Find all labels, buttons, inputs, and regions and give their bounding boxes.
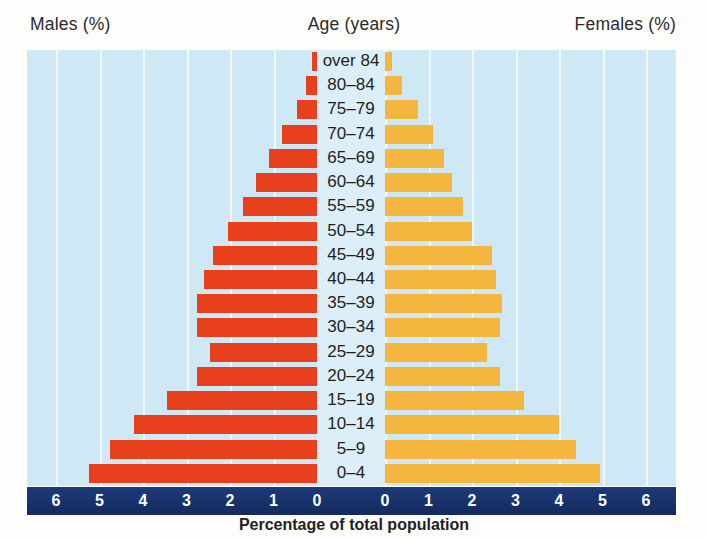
female-bar: [385, 440, 576, 459]
x-tick-right-5: 5: [591, 487, 615, 515]
female-bar: [385, 367, 500, 386]
male-bar: [213, 246, 317, 265]
age-group-label: 20–24: [317, 365, 385, 388]
pyramid-row: 5–9: [27, 438, 676, 461]
male-bar: [197, 367, 317, 386]
pyramid-row: 70–74: [27, 123, 676, 146]
pyramid-row: 35–39: [27, 292, 676, 315]
female-bar: [385, 294, 502, 313]
x-tick-left-4: 4: [131, 487, 155, 515]
plot-area: over 8480–8475–7970–7465–6960–6455–5950–…: [27, 50, 676, 486]
pyramid-row: 25–29: [27, 341, 676, 364]
x-axis-caption: Percentage of total population: [0, 516, 708, 534]
x-tick-right-3: 3: [504, 487, 528, 515]
male-bar: [134, 415, 317, 434]
male-bar: [204, 270, 317, 289]
male-bar: [297, 100, 317, 119]
age-group-label: 80–84: [317, 74, 385, 97]
x-axis-strip: 65432100123456: [27, 487, 676, 515]
pyramid-row: 30–34: [27, 316, 676, 339]
x-tick-left-1: 1: [262, 487, 286, 515]
age-group-label: 70–74: [317, 123, 385, 146]
females-axis-title: Females (%): [575, 14, 676, 35]
female-bar: [385, 415, 559, 434]
male-bar: [110, 440, 317, 459]
female-bar: [385, 391, 524, 410]
female-bar: [385, 173, 452, 192]
x-tick-left-5: 5: [88, 487, 112, 515]
age-group-label: 45–49: [317, 244, 385, 267]
female-bar: [385, 343, 487, 362]
age-group-label: 60–64: [317, 171, 385, 194]
pyramid-row: 15–19: [27, 389, 676, 412]
male-bar: [167, 391, 317, 410]
male-bar: [89, 464, 317, 483]
age-group-label: 65–69: [317, 147, 385, 170]
pyramid-row: 10–14: [27, 413, 676, 436]
female-bar: [385, 100, 418, 119]
age-group-label: 5–9: [317, 438, 385, 461]
pyramid-row: 50–54: [27, 220, 676, 243]
female-bar: [385, 52, 392, 71]
pyramid-row: 45–49: [27, 244, 676, 267]
pyramid-row: 65–69: [27, 147, 676, 170]
female-bar: [385, 125, 433, 144]
x-tick-left-3: 3: [175, 487, 199, 515]
female-bar: [385, 318, 500, 337]
pyramid-row: 55–59: [27, 195, 676, 218]
female-bar: [385, 270, 496, 289]
female-bar: [385, 197, 463, 216]
age-group-label: 75–79: [317, 98, 385, 121]
male-bar: [210, 343, 317, 362]
age-group-label: 50–54: [317, 220, 385, 243]
age-group-label: over 84: [317, 50, 385, 73]
pyramid-row: 0–4: [27, 462, 676, 485]
chart-header: Males (%) Age (years) Females (%): [0, 14, 708, 46]
male-bar: [197, 294, 317, 313]
age-group-label: 40–44: [317, 268, 385, 291]
x-tick-right-1: 1: [417, 487, 441, 515]
age-group-label: 55–59: [317, 195, 385, 218]
population-pyramid-figure: Males (%) Age (years) Females (%) over 8…: [0, 0, 708, 540]
x-tick-right-4: 4: [547, 487, 571, 515]
age-group-label: 30–34: [317, 316, 385, 339]
x-tick-left-2: 2: [218, 487, 242, 515]
age-group-label: 15–19: [317, 389, 385, 412]
female-bar: [385, 222, 472, 241]
x-tick-right-6: 6: [634, 487, 658, 515]
male-bar: [197, 318, 317, 337]
male-bar: [256, 173, 317, 192]
male-bar: [228, 222, 317, 241]
male-bar: [243, 197, 317, 216]
pyramid-row: 75–79: [27, 98, 676, 121]
pyramid-row: 60–64: [27, 171, 676, 194]
female-bar: [385, 246, 492, 265]
x-tick-right-0: 0: [373, 487, 397, 515]
age-group-label: 10–14: [317, 413, 385, 436]
bar-rows: over 8480–8475–7970–7465–6960–6455–5950–…: [27, 50, 676, 486]
female-bar: [385, 76, 402, 95]
pyramid-row: 80–84: [27, 74, 676, 97]
age-group-label: 25–29: [317, 341, 385, 364]
pyramid-row: over 84: [27, 50, 676, 73]
male-bar: [306, 76, 317, 95]
male-bar: [269, 149, 317, 168]
x-tick-left-0: 0: [305, 487, 329, 515]
x-tick-left-6: 6: [44, 487, 68, 515]
female-bar: [385, 464, 600, 483]
pyramid-row: 20–24: [27, 365, 676, 388]
pyramid-row: 40–44: [27, 268, 676, 291]
age-group-label: 0–4: [317, 462, 385, 485]
x-tick-right-2: 2: [460, 487, 484, 515]
age-group-label: 35–39: [317, 292, 385, 315]
male-bar: [282, 125, 317, 144]
female-bar: [385, 149, 444, 168]
